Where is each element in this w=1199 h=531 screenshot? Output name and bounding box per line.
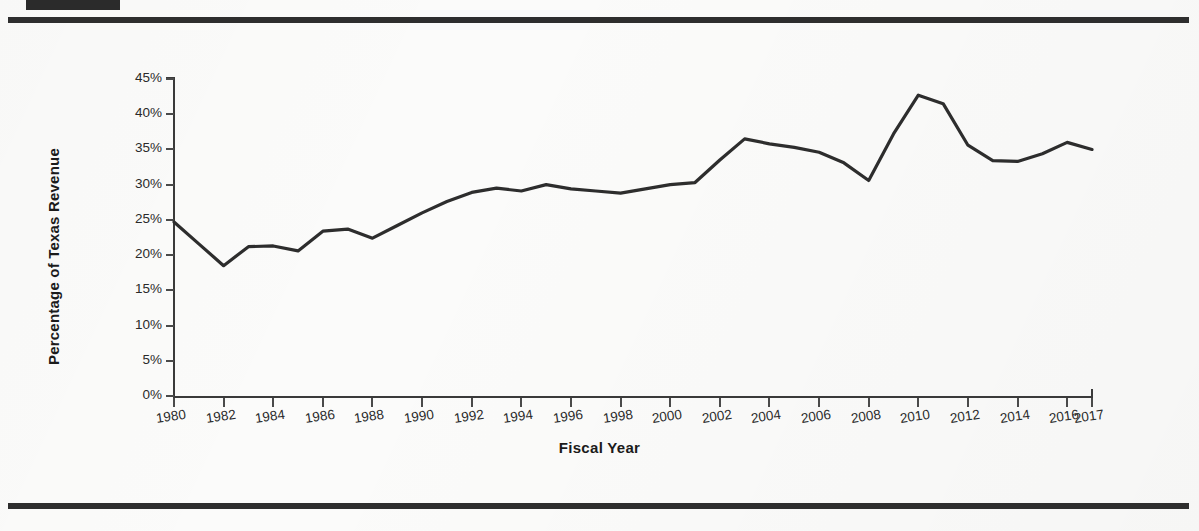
x-axis-tick [1017, 398, 1019, 407]
x-axis-tick [173, 398, 175, 407]
y-axis-tick-label: 10% [100, 317, 162, 332]
x-axis-tick-label: 1996 [552, 407, 584, 426]
x-axis-tick-label: 2004 [750, 407, 782, 426]
x-axis-tick [620, 398, 622, 407]
x-axis-tick-label: 2000 [651, 407, 683, 426]
x-axis-tick-label: 2006 [800, 407, 832, 426]
y-axis-tick-label: 30% [100, 176, 162, 191]
x-axis-tick [868, 398, 870, 407]
x-axis-tick [223, 398, 225, 407]
x-axis-end-cap [1091, 389, 1093, 398]
y-axis-line [173, 77, 175, 398]
x-axis-tick-label: 1992 [453, 407, 485, 426]
x-axis-tick-label: 2014 [999, 407, 1031, 426]
y-axis-tick [166, 113, 174, 115]
y-axis-tick-label: 40% [100, 105, 162, 120]
x-axis-tick [1091, 398, 1093, 407]
document-page: Percentage of Texas Revenue Fiscal Year … [0, 0, 1199, 531]
y-axis-tick [166, 395, 174, 397]
y-axis-tick-label: 5% [100, 352, 162, 367]
x-axis-tick-label: 2002 [701, 407, 733, 426]
y-axis-tick [166, 289, 174, 291]
x-axis-line [173, 396, 1093, 398]
x-axis-tick [818, 398, 820, 407]
x-axis-tick [272, 398, 274, 407]
y-axis-tick [166, 325, 174, 327]
y-axis-tick-label: 45% [100, 70, 162, 85]
x-axis-title: Fiscal Year [0, 439, 1199, 456]
x-axis-tick [570, 398, 572, 407]
chart-plot-svg [0, 23, 1199, 503]
y-axis-tick [166, 219, 174, 221]
x-axis-tick-label: 1988 [353, 407, 385, 426]
bottom-horizontal-rule [8, 503, 1189, 509]
x-axis-tick [322, 398, 324, 407]
y-axis-tick-label: 15% [100, 281, 162, 296]
x-axis-tick [471, 398, 473, 407]
x-axis-tick [917, 398, 919, 407]
y-axis-tick-label: 20% [100, 246, 162, 261]
y-axis-tick [166, 148, 174, 150]
y-axis-tick [166, 184, 174, 186]
x-axis-tick [768, 398, 770, 407]
x-axis-tick-label: 1982 [205, 407, 237, 426]
x-axis-tick [719, 398, 721, 407]
chart-figure: Percentage of Texas Revenue Fiscal Year … [0, 23, 1199, 503]
y-axis-tick-label: 35% [100, 140, 162, 155]
y-axis-tick-label: 25% [100, 211, 162, 226]
x-axis-tick-label: 2010 [899, 407, 931, 426]
x-axis-tick-label: 1984 [254, 407, 286, 426]
x-axis-tick-label: 1980 [155, 407, 187, 426]
x-axis-tick-label: 2008 [850, 407, 882, 426]
x-axis-tick [421, 398, 423, 407]
y-axis-tick [166, 360, 174, 362]
x-axis-tick-label: 1990 [403, 407, 435, 426]
y-axis-tick [166, 254, 174, 256]
x-axis-tick-label: 1994 [502, 407, 534, 426]
x-axis-tick [371, 398, 373, 407]
y-axis-title: Percentage of Texas Revenue [45, 127, 62, 387]
x-axis-tick [1066, 398, 1068, 407]
x-axis-tick-label: 1998 [602, 407, 634, 426]
redacted-header-bar [26, 0, 120, 10]
x-axis-tick [520, 398, 522, 407]
x-axis-tick-label: 1986 [304, 407, 336, 426]
x-axis-tick [967, 398, 969, 407]
x-axis-tick [669, 398, 671, 407]
x-axis-tick-label: 2017 [1073, 407, 1105, 426]
data-series-line [174, 95, 1092, 265]
x-axis-tick-label: 2012 [949, 407, 981, 426]
y-axis-tick [166, 78, 174, 80]
y-axis-tick-label: 0% [100, 387, 162, 402]
